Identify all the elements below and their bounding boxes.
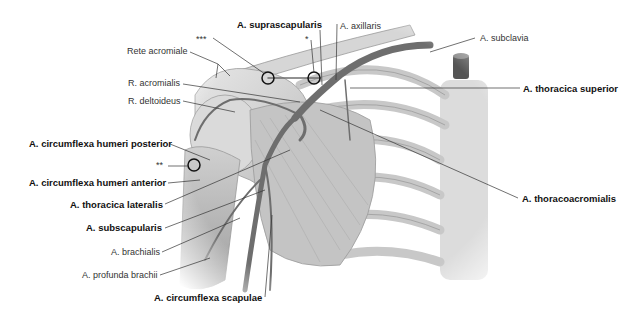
anatomy-figure: A. suprascapularis *** * A. axillaris A.… (0, 0, 641, 317)
label-a-subscapularis: A. subscapularis (86, 222, 162, 233)
label-a-subclavia: A. subclavia (480, 33, 529, 44)
marker-single-asterisk: * (305, 34, 309, 45)
label-a-circumflexa-humeri-posterior: A. circumflexa humeri posterior (29, 138, 172, 149)
label-rete-acromiale: Rete acromiale (127, 46, 188, 57)
label-a-thoracica-lateralis: A. thoracica lateralis (70, 199, 163, 210)
label-a-circumflexa-humeri-anterior: A. circumflexa humeri anterior (29, 177, 166, 188)
label-a-circumflexa-scapulae: A. circumflexa scapulae (154, 292, 262, 303)
label-r-acromialis: R. acromialis (128, 78, 180, 89)
label-r-deltoideus: R. deltoideus (128, 96, 181, 107)
marker-double-asterisk: ** (156, 160, 163, 171)
label-a-thoracica-superior: A. thoracica superior (523, 83, 618, 94)
label-a-brachialis: A. brachialis (111, 247, 160, 258)
label-a-thoracoacromialis: A. thoracoacromialis (522, 193, 616, 204)
label-a-suprascapularis: A. suprascapularis (237, 19, 322, 30)
label-a-axillaris: A. axillaris (340, 21, 381, 32)
label-a-profunda-brachii: A. profunda brachii (82, 270, 158, 281)
marker-triple-asterisk: *** (196, 34, 207, 45)
